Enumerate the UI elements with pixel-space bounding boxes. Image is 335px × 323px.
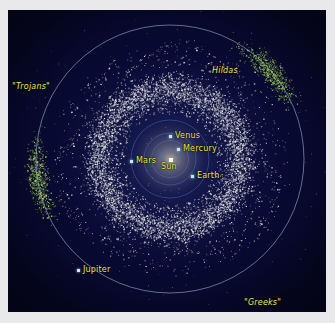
trojan-points bbox=[24, 126, 60, 226]
marker-jupiter bbox=[77, 269, 80, 272]
marker-venus bbox=[169, 135, 172, 138]
marker-mars bbox=[130, 160, 133, 163]
figure-root: Sun Mercury Venus Earth Mars Jupiter "Tr… bbox=[0, 0, 335, 323]
sky-field: Sun Mercury Venus Earth Mars Jupiter "Tr… bbox=[8, 10, 326, 312]
marker-mercury bbox=[177, 148, 180, 151]
solar-system-plot bbox=[8, 10, 326, 312]
marker-sun bbox=[169, 158, 173, 162]
marker-earth bbox=[191, 175, 194, 178]
